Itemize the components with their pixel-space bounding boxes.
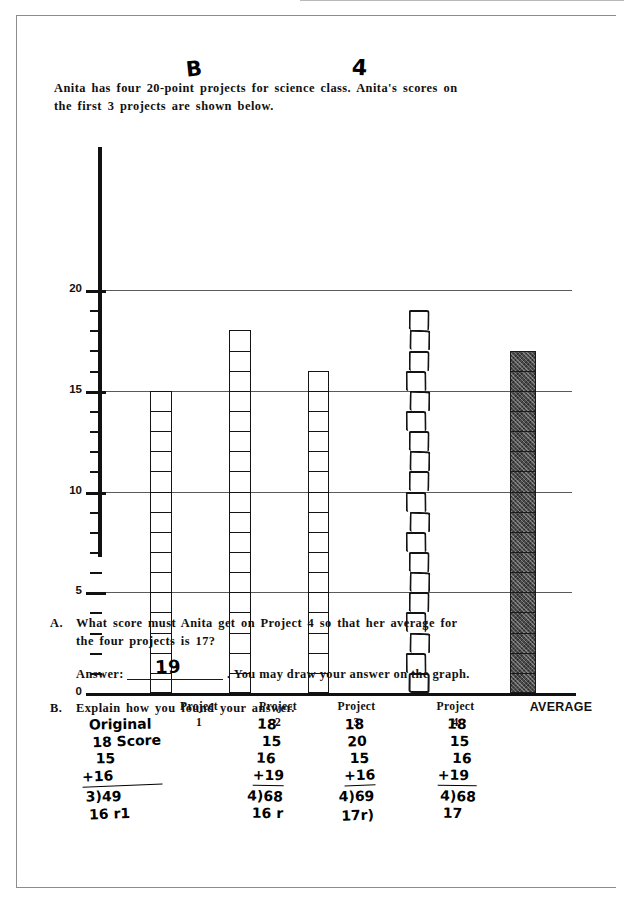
bar-unit: [409, 451, 430, 472]
work-line: 17r): [341, 807, 377, 825]
bar-unit: [409, 330, 430, 351]
bar-unit: [405, 371, 426, 391]
problem-statement-line2: the first 3 projects are shown below.: [54, 98, 574, 116]
y-axis-label-15: 15: [52, 383, 82, 395]
bar-unit: [408, 431, 429, 451]
bar-unit: [229, 492, 251, 512]
bar-unit: [308, 552, 329, 572]
bar-unit: [229, 471, 251, 491]
bar-unit: [308, 451, 329, 471]
question-a: A. What score must Anita get on Project …: [50, 615, 580, 651]
answer-row: Answer: 19 . You may draw your answer on…: [76, 662, 576, 682]
work-line: 20: [347, 732, 375, 750]
question-a-text: What score must Anita get on Project 4 s…: [76, 615, 580, 651]
handwritten-mark-4: 4: [351, 55, 368, 81]
work-line: 18: [345, 716, 374, 733]
y-tick-9: [90, 512, 102, 514]
bar-unit: [229, 411, 251, 431]
work-line: 16 r: [252, 805, 283, 822]
bar-unit: [229, 451, 251, 471]
bar-unit: [308, 532, 329, 552]
work-line: 15: [350, 750, 375, 767]
bar-unit: [510, 351, 536, 371]
bar-unit: [510, 592, 536, 612]
answer-suffix: . You may draw your answer on the graph.: [227, 667, 470, 681]
bar-unit: [409, 512, 430, 533]
bar-unit: [510, 492, 536, 512]
work-line: +19: [438, 767, 477, 787]
question-b-letter: B.: [50, 700, 62, 718]
question-a-line1: What score must Anita get on Project 4 s…: [76, 616, 458, 630]
y-tick-8: [90, 532, 102, 534]
bar-unit: [308, 431, 329, 451]
bar-unit: [405, 532, 426, 552]
bar-unit: [510, 552, 536, 572]
bar-unit: [150, 592, 172, 612]
y-tick-15: [86, 391, 106, 394]
y-tick-10: [86, 492, 106, 495]
bar-unit: [405, 411, 426, 431]
handwritten-answer-value: 19: [155, 656, 182, 678]
answer-blank[interactable]: 19: [127, 662, 223, 680]
work-column-4: 181516+194)6817: [441, 716, 478, 823]
bar-unit: [408, 350, 429, 370]
work-line: 15: [96, 750, 162, 768]
bar-unit: [150, 391, 172, 411]
problem-statement: Anita has four 20-point projects for sci…: [54, 80, 574, 116]
y-tick-5: [86, 592, 106, 595]
y-axis-label-20: 20: [52, 282, 82, 294]
work-column-2: 181516+194)6816 r: [251, 716, 286, 823]
work-line: 4)68: [440, 788, 476, 806]
bar-unit: [510, 371, 536, 391]
work-line: +16: [82, 766, 162, 788]
work-line: 16: [452, 750, 477, 768]
bar-unit: [229, 431, 251, 451]
bar-unit: [308, 371, 329, 391]
work-column-3: 182015+164)6917r): [341, 716, 377, 825]
y-tick-2: [90, 653, 102, 655]
y-tick-19: [90, 310, 102, 312]
bar-unit: [150, 471, 172, 491]
bar-unit: [229, 371, 251, 391]
y-axis-label-10: 10: [52, 484, 82, 496]
work-line: +16: [344, 767, 376, 787]
bar-unit: [308, 391, 329, 411]
work-line: 4)69: [339, 788, 376, 806]
y-tick-12: [90, 451, 102, 453]
bar-unit: [308, 592, 329, 612]
bar-unit: [229, 330, 251, 350]
question-b-text: Explain how you found your answer.: [76, 701, 295, 715]
bar-unit: [150, 451, 172, 471]
bar-unit: [229, 572, 251, 592]
bar-unit: [409, 572, 430, 593]
bar-unit: [510, 431, 536, 451]
x-axis: [98, 693, 576, 696]
page-top-edge: [300, 0, 624, 1]
y-tick-16: [90, 371, 102, 373]
y-axis-label-5: 5: [52, 584, 82, 596]
bar-unit: [308, 411, 329, 431]
bar-unit: [408, 592, 429, 612]
bar-unit: [308, 492, 329, 512]
bar-unit: [510, 572, 536, 592]
bar-unit: [408, 310, 429, 330]
work-line: 18: [447, 715, 478, 733]
y-tick-11: [90, 471, 102, 473]
bar-chart: 05101520 Project1Project2Project3Project…: [60, 143, 580, 563]
handwritten-mark-b: B: [185, 56, 203, 82]
bar-unit: [150, 552, 172, 572]
bar-unit: [408, 552, 429, 572]
bar-unit: [150, 512, 172, 532]
bar-unit: [308, 471, 329, 491]
bar-unit: [229, 532, 251, 552]
y-tick-20: [86, 290, 106, 293]
chart-marks-layer: 05101520: [60, 143, 580, 563]
bar-unit: [405, 491, 426, 511]
bar-unit: [229, 552, 251, 572]
y-tick-0: [86, 693, 106, 696]
work-line: 16 r1: [89, 804, 163, 824]
y-tick-13: [90, 431, 102, 433]
bar-unit: [229, 351, 251, 371]
bar-unit: [229, 512, 251, 532]
y-tick-6: [90, 572, 102, 574]
